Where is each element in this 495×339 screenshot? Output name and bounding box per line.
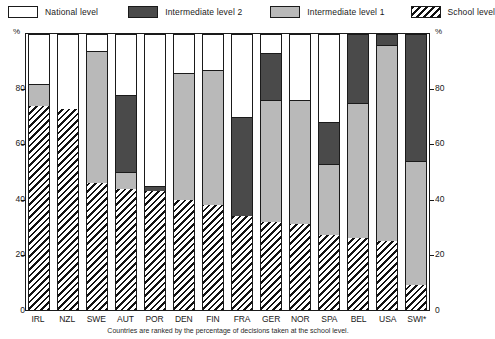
bar-segment-national: [174, 34, 194, 73]
bar-ger[interactable]: [260, 34, 282, 310]
y-axis-unit-right: %: [435, 27, 442, 36]
bar-segment-int1: [406, 161, 426, 285]
bar-nor[interactable]: [289, 34, 311, 310]
bar-segment-school: [29, 106, 49, 310]
legend-item-school: School level: [411, 6, 495, 18]
x-axis-label-fin: FIN: [202, 314, 224, 328]
bar-segment-school: [406, 285, 426, 310]
bar-segment-int2: [348, 34, 368, 103]
bar-usa[interactable]: [376, 34, 398, 310]
y-axis-tick-mark-right-20: [430, 255, 434, 256]
bar-aut[interactable]: [115, 34, 137, 310]
bar-segment-int2: [377, 34, 397, 45]
legend-swatch-national-icon: [8, 6, 38, 18]
legend-label-national: National level: [45, 7, 98, 17]
bar-por[interactable]: [144, 34, 166, 310]
legend-item-national: National level: [8, 6, 98, 18]
y-axis-tick-mark-left-80: [21, 89, 25, 90]
bar-segment-int2: [116, 95, 136, 172]
y-axis-tick-label-right-0: 0: [435, 306, 440, 315]
y-axis-tick-mark-right-60: [430, 144, 434, 145]
bar-segment-int1: [203, 70, 223, 205]
bar-segment-national: [116, 34, 136, 95]
chart-footnote: Countries are ranked by the percentage o…: [0, 327, 456, 334]
bar-fin[interactable]: [202, 34, 224, 310]
bar-swe[interactable]: [86, 34, 108, 310]
bar-segment-national: [232, 34, 252, 117]
bar-segment-int2: [261, 53, 281, 100]
bar-segment-int1: [87, 51, 107, 183]
legend-swatch-intermediate-2-icon: [128, 6, 158, 18]
x-axis-label-usa: USA: [377, 314, 399, 328]
x-axis-label-den: DEN: [173, 314, 195, 328]
bar-segment-school: [261, 222, 281, 310]
legend-item-intermediate-1: Intermediate level 1: [270, 6, 384, 18]
bar-segment-national: [87, 34, 107, 51]
bar-den[interactable]: [173, 34, 195, 310]
legend-swatch-intermediate-1-icon: [270, 6, 300, 18]
bar-segment-int1: [29, 84, 49, 106]
bar-bel[interactable]: [347, 34, 369, 310]
x-axis-label-nor: NOR: [289, 314, 311, 328]
bar-segment-int2: [406, 34, 426, 161]
x-axis-label-irl: IRL: [27, 314, 49, 328]
x-axis-label-nzl: NZL: [56, 314, 78, 328]
y-axis-tick-mark-left-20: [21, 255, 25, 256]
y-axis-unit-left: %: [13, 27, 20, 36]
bar-segment-int1: [348, 103, 368, 238]
bar-irl[interactable]: [28, 34, 50, 310]
bar-segment-int1: [319, 164, 339, 236]
y-axis-tick-label-right-40: 40: [435, 195, 444, 204]
chart-legend: National level Intermediate level 2 Inte…: [0, 0, 456, 24]
bar-swi[interactable]: [405, 34, 427, 310]
x-axis-label-swi: SWI*: [406, 314, 428, 328]
bar-segment-int1: [261, 100, 281, 221]
bar-segment-int1: [290, 100, 310, 224]
x-axis-label-ger: GER: [260, 314, 282, 328]
x-axis-labels: IRLNZLSWEAUTPORDENFINFRAGERNORSPABELUSAS…: [25, 314, 430, 328]
legend-label-intermediate-1: Intermediate level 1: [307, 7, 384, 17]
bar-segment-national: [145, 34, 165, 186]
legend-swatch-school-icon: [411, 6, 441, 18]
bar-segment-school: [174, 200, 194, 310]
bar-segment-national: [261, 34, 281, 53]
stacked-bar-chart: % % IRLNZLSWEAUTPORDENFINFRAGERNORSPABEL…: [0, 24, 456, 339]
legend-label-intermediate-2: Intermediate level 2: [165, 7, 242, 17]
y-axis-tick-label-left-0: 0: [20, 306, 25, 315]
bar-segment-int1: [377, 45, 397, 241]
y-axis-tick-label-right-20: 20: [435, 250, 444, 259]
bar-segment-school: [116, 189, 136, 310]
bar-segment-school: [87, 183, 107, 310]
legend-item-intermediate-2: Intermediate level 2: [128, 6, 242, 18]
bar-segment-school: [348, 238, 368, 310]
bar-segment-school: [203, 205, 223, 310]
bar-segment-national: [319, 34, 339, 122]
bar-segment-int2: [232, 117, 252, 216]
bar-segment-national: [29, 34, 49, 84]
bar-nzl[interactable]: [57, 34, 79, 310]
y-axis-tick-label-right-60: 60: [435, 139, 444, 148]
x-axis-label-swe: SWE: [85, 314, 107, 328]
x-axis-label-fra: FRA: [231, 314, 253, 328]
bar-segment-school: [232, 216, 252, 310]
y-axis-tick-mark-left-40: [21, 200, 25, 201]
bar-segment-national: [290, 34, 310, 100]
x-axis-label-por: POR: [144, 314, 166, 328]
bar-segment-national: [58, 34, 78, 109]
bars-container: [26, 34, 429, 310]
bar-segment-int2: [319, 122, 339, 163]
legend-label-school: School level: [448, 7, 495, 17]
x-axis-label-spa: SPA: [318, 314, 340, 328]
y-axis-tick-label-right-80: 80: [435, 84, 444, 93]
bar-segment-national: [203, 34, 223, 70]
x-axis-label-aut: AUT: [114, 314, 136, 328]
bar-segment-school: [290, 224, 310, 310]
bar-segment-int1: [174, 73, 194, 200]
bar-segment-school: [377, 241, 397, 310]
x-axis-label-bel: BEL: [348, 314, 370, 328]
bar-fra[interactable]: [231, 34, 253, 310]
bar-segment-school: [145, 191, 165, 310]
bar-segment-school: [58, 109, 78, 310]
bar-spa[interactable]: [318, 34, 340, 310]
bar-segment-int1: [116, 172, 136, 189]
